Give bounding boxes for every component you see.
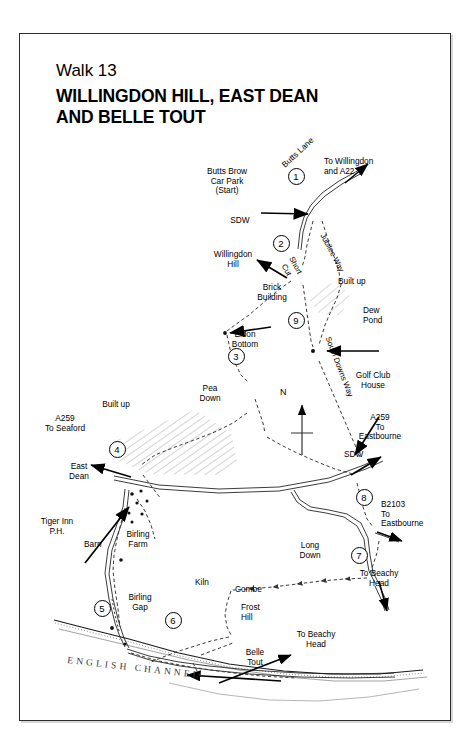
waypoint-marker-9[interactable]: 9	[288, 312, 305, 329]
waypoint-marker-4[interactable]: 4	[109, 441, 126, 458]
label-sdw-right: SDW	[344, 450, 374, 460]
label-east-dean: East Dean	[57, 462, 101, 481]
label-pea-down: Pea Down	[192, 384, 228, 403]
path-1-to-2	[302, 221, 313, 267]
waypoint-marker-1[interactable]: 1	[288, 168, 305, 185]
label-willingdon-hill: Willingdon Hill	[204, 250, 262, 269]
label-dew-pond: Dew Pond	[363, 306, 403, 325]
label-birling-gap: Birling Gap	[119, 593, 161, 612]
label-b2103-to-eastbourne: B2103 To Eastbourne	[381, 500, 439, 529]
pointer-butts-brow	[261, 213, 308, 214]
waypoint-marker-2[interactable]: 2	[273, 235, 290, 252]
map-page: Walk 13 WILLINGDON HILL, EAST DEAN AND B…	[0, 0, 471, 744]
built-up-area-willingdon	[310, 282, 350, 315]
label-brick-building: Brick Building	[249, 283, 295, 302]
waypoint-marker-5[interactable]: 5	[94, 600, 111, 617]
waypoint-marker-8[interactable]: 8	[356, 489, 373, 506]
label-golf-club-house: Golf Club House	[345, 371, 401, 390]
label-sdw-top: SDW	[225, 216, 255, 226]
path-6-to-frost-hill	[201, 643, 233, 655]
path-4-village	[143, 475, 161, 499]
built-up-area-east-dean	[112, 410, 238, 475]
label-kiln: Kiln	[195, 578, 223, 588]
label-a259-to-eastbourne: A259 To Eastbourne	[352, 413, 408, 442]
label-eldon-bottom: Eldon Bottom	[223, 330, 267, 349]
label-belle-tout: Belle Tout	[236, 648, 274, 667]
label-birling-farm: Birling Farm	[117, 530, 159, 549]
shore-curve-lower	[169, 683, 419, 701]
compass-north-label: N	[280, 387, 287, 397]
path-3-to-pea-down	[255, 399, 265, 433]
path-kiln-combe-down	[225, 591, 231, 635]
waypoint-marker-7[interactable]: 7	[351, 547, 368, 564]
label-to-beachy-head-2: To Beachy Head	[287, 630, 345, 649]
label-combe: Combe	[235, 585, 273, 595]
label-to-beachy-head-1: To Beachy Head	[350, 569, 408, 588]
path-short-cut	[303, 285, 313, 347]
label-barn: Barn	[84, 540, 114, 550]
label-frost-hill: Frost Hill	[241, 603, 277, 622]
arrow-b2103	[377, 532, 402, 541]
path-frost-hill-west	[149, 637, 229, 663]
label-long-down: Long Down	[291, 541, 329, 560]
road-b2103-spur	[375, 533, 399, 542]
road-beachy-head-south	[375, 585, 389, 611]
waypoint-marker-3[interactable]: 3	[228, 348, 245, 365]
path-pea-down-east	[267, 437, 353, 474]
label-built-up-left: Built up	[92, 400, 140, 410]
label-butts-brow-car-park: Butts Brow Car Park (Start)	[196, 167, 258, 196]
waypoint-marker-6[interactable]: 6	[165, 612, 182, 629]
label-a259-to-seaford: A259 To Seaford	[34, 414, 96, 433]
label-built-up-right: Built up	[338, 277, 386, 287]
arrow-a259-eastbourne	[351, 457, 381, 475]
compass-rose	[291, 405, 313, 455]
label-to-willingdon: To Willingdon and A22	[324, 157, 390, 176]
label-tiger-inn: Tiger Inn P.H.	[32, 517, 82, 536]
